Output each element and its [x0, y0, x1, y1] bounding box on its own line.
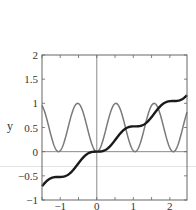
x-tick-label: 2: [167, 200, 173, 210]
y-tick-label: 2: [33, 49, 39, 61]
series-line-1: [42, 103, 187, 151]
y-tick-label: 1.5: [24, 73, 38, 85]
y-axis-label: y: [7, 119, 13, 133]
y-tick-label: −0.5: [18, 170, 38, 182]
series-line-2: [42, 95, 187, 186]
line-chart: 21.510.50−0.5−1−1012 y: [0, 0, 196, 210]
x-tick-label: 1: [131, 200, 137, 210]
y-tick-label: −1: [26, 194, 38, 206]
y-tick-label: 0: [33, 146, 39, 158]
x-tick-label: 0: [94, 200, 100, 210]
plot-area: 21.510.50−0.5−1−1012: [18, 49, 187, 210]
plot-frame: [42, 55, 187, 200]
x-tick-label: −1: [54, 200, 66, 210]
y-tick-label: 1: [33, 97, 39, 109]
y-tick-label: 0.5: [24, 122, 38, 134]
